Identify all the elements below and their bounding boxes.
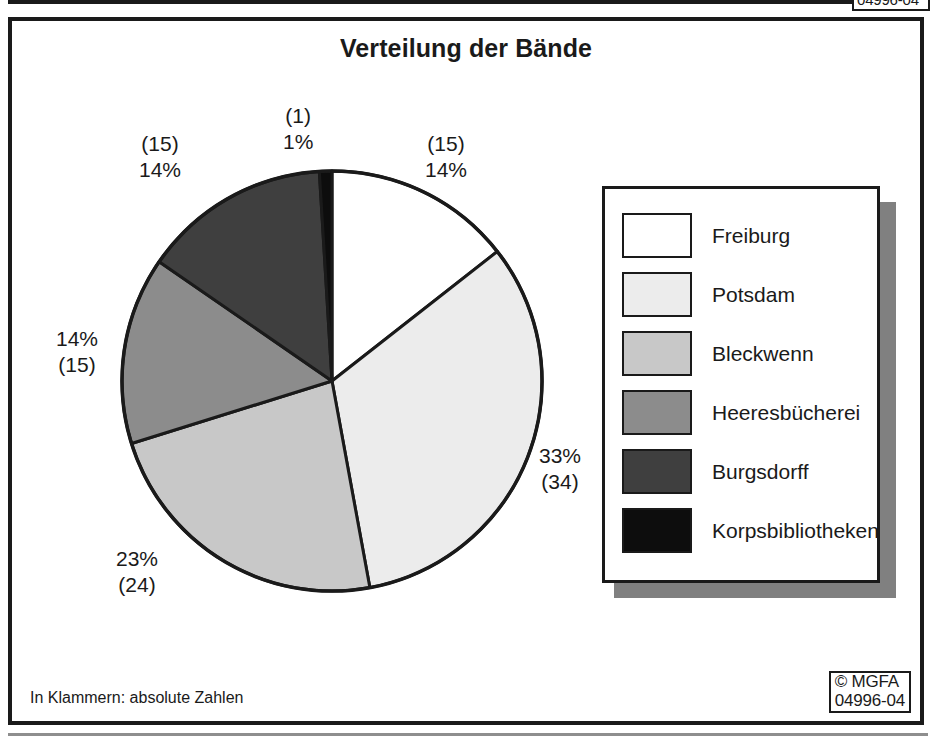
legend-item-label: Korpsbibliotheken — [712, 519, 879, 543]
legend-item-burgsdorff: Burgsdorff — [622, 442, 867, 501]
legend-item-heeresb-cherei: Heeresbücherei — [622, 383, 867, 442]
callout-heeresbuecherei: 14% (15) — [56, 326, 98, 377]
footnote: In Klammern: absolute Zahlen — [30, 689, 243, 707]
legend-item-label: Freiburg — [712, 224, 790, 248]
callout-potsdam-count: (34) — [539, 469, 581, 495]
legend-item-potsdam: Potsdam — [622, 265, 867, 324]
callout-bleckwenn: 23% (24) — [116, 546, 158, 597]
callout-heeresbuecherei-count: (15) — [56, 352, 98, 378]
previous-figure-copyright-clipped: 04996-04 — [852, 0, 930, 11]
legend-swatch-icon — [622, 508, 692, 553]
callout-heeresbuecherei-percent: 14% — [56, 326, 98, 352]
copyright-stamp: © MGFA 04996-04 — [829, 671, 911, 713]
legend-swatch-icon — [622, 331, 692, 376]
callout-korpsbibliotheken-percent: 1% — [283, 129, 313, 155]
legend-swatch-icon — [622, 272, 692, 317]
pie-chart — [104, 148, 564, 618]
callout-bleckwenn-percent: 23% — [116, 546, 158, 572]
legend-swatch-icon — [622, 390, 692, 435]
callout-burgsdorff: (15) 14% — [139, 131, 181, 182]
legend-item-korpsbibliotheken: Korpsbibliotheken — [622, 501, 867, 560]
figure-screenshot: 04996-04 Verteilung der Bände (1) 1% (15… — [0, 0, 936, 740]
legend-item-bleckwenn: Bleckwenn — [622, 324, 867, 383]
callout-freiburg-percent: 14% — [425, 157, 467, 183]
legend-item-freiburg: Freiburg — [622, 206, 867, 265]
callout-freiburg: (15) 14% — [425, 131, 467, 182]
callout-korpsbibliotheken: (1) 1% — [283, 103, 313, 154]
legend-swatch-icon — [622, 449, 692, 494]
figure-frame: Verteilung der Bände (1) 1% (15) 14% (15… — [8, 17, 924, 725]
legend-item-label: Bleckwenn — [712, 342, 814, 366]
chart-title: Verteilung der Bände — [12, 34, 920, 63]
legend: FreiburgPotsdamBleckwennHeeresbüchereiBu… — [602, 186, 880, 583]
copyright-owner: © MGFA — [835, 673, 905, 691]
previous-figure-rule — [8, 0, 928, 4]
pie-chart-svg — [104, 148, 564, 618]
callout-freiburg-count: (15) — [425, 131, 467, 157]
previous-figure-copyright-text: 04996-04 — [857, 0, 919, 8]
page-bottom-rule — [8, 733, 928, 736]
callout-potsdam-percent: 33% — [539, 443, 581, 469]
legend-swatch-icon — [622, 213, 692, 258]
callout-potsdam: 33% (34) — [539, 443, 581, 494]
callout-burgsdorff-percent: 14% — [139, 157, 181, 183]
callout-bleckwenn-count: (24) — [116, 572, 158, 598]
callout-burgsdorff-count: (15) — [139, 131, 181, 157]
legend-list: FreiburgPotsdamBleckwennHeeresbüchereiBu… — [622, 206, 867, 570]
legend-item-label: Potsdam — [712, 283, 795, 307]
callout-korpsbibliotheken-count: (1) — [283, 103, 313, 129]
legend-item-label: Heeresbücherei — [712, 401, 860, 425]
copyright-number: 04996-04 — [835, 692, 905, 710]
legend-item-label: Burgsdorff — [712, 460, 809, 484]
